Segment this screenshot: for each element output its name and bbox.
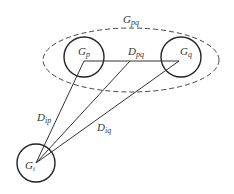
- node-gq-circle: [161, 37, 201, 77]
- group-pq-ellipse: [43, 28, 219, 92]
- node-gq-label: Gq: [180, 45, 192, 59]
- node-gp-label: Gp: [78, 45, 90, 59]
- node-gp-circle: [64, 37, 104, 77]
- group-distance-diagram: Gpq Gp Gq Gi Dpq Dip Diq: [0, 0, 234, 194]
- edge-dpq-label: Dpq: [127, 45, 144, 59]
- node-gi-label: Gi: [25, 159, 35, 173]
- group-pq-label: Gpq: [123, 13, 139, 27]
- edge-dip-label: Dip: [36, 111, 51, 125]
- edge-diq-label: Diq: [96, 121, 111, 135]
- edge-diq: [36, 61, 179, 163]
